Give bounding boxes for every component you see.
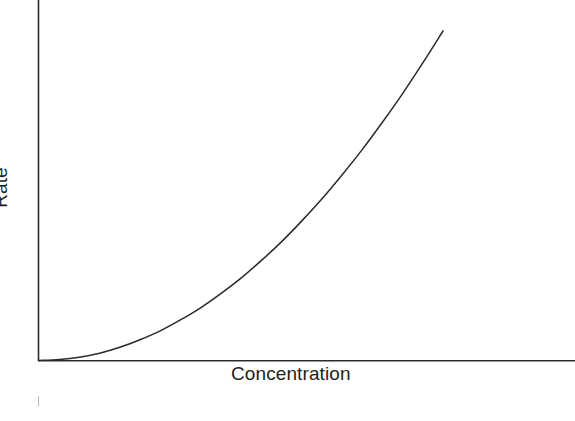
plot-background [0, 0, 575, 421]
x-axis-label: Concentration [231, 364, 351, 383]
chart-figure: Concentration Rate [0, 0, 575, 421]
y-axis-label-text: Rate [0, 167, 10, 218]
chart-canvas [0, 0, 575, 421]
y-axis-label: Rate [0, 167, 10, 218]
